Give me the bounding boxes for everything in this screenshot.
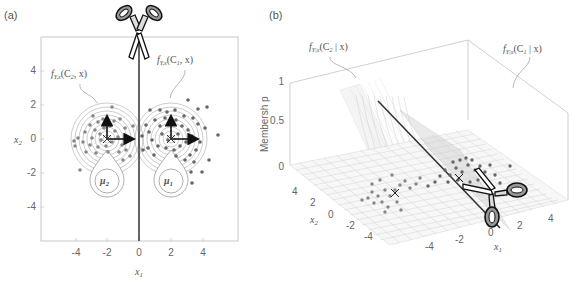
- figure: (a) 4 2 0 -2 -4 -4 -2 0 2 4 x1 x2: [0, 0, 581, 287]
- svg-text:fY|x(C1 | x): fY|x(C1 | x): [503, 43, 542, 55]
- svg-text:0: 0: [328, 209, 334, 220]
- svg-text:fY|x(C2 | x): fY|x(C2 | x): [309, 41, 348, 53]
- panel-b-x1-label: x1: [493, 241, 502, 254]
- svg-text:4: 4: [292, 186, 298, 197]
- svg-text:-4: -4: [425, 241, 434, 252]
- svg-text:2: 2: [30, 99, 36, 110]
- annotation-c1-b: fY|x(C1 | x): [503, 43, 542, 88]
- panel-a-y-ticks: 4 2 0 -2 -4: [27, 65, 36, 212]
- svg-text:0: 0: [30, 133, 36, 144]
- panel-b-x2-label: x2: [309, 214, 318, 227]
- svg-text:0.5: 0.5: [270, 115, 284, 126]
- svg-text:4: 4: [548, 213, 554, 224]
- svg-text:-2: -2: [455, 234, 464, 245]
- panel-b-z-ticks: 1 0.5 0: [270, 76, 284, 172]
- svg-text:-2: -2: [27, 167, 36, 178]
- svg-text:0: 0: [278, 161, 284, 172]
- svg-text:-2: -2: [103, 247, 112, 258]
- svg-text:fY,x(C1, x): fY,x(C1, x): [157, 54, 193, 66]
- panel-b-label: (b): [269, 9, 282, 21]
- annotation-c2-a: fY,x(C2, x): [51, 68, 98, 103]
- svg-text:2: 2: [517, 220, 523, 231]
- annotation-c1-a: fY,x(C1, x): [157, 54, 193, 98]
- panel-b-z-label: Membersh p: [259, 96, 270, 152]
- panel-a-x1-label: x1: [134, 266, 143, 279]
- svg-text:-4: -4: [72, 247, 81, 258]
- panel-a-x2-label: x2: [13, 134, 22, 147]
- svg-text:0: 0: [488, 227, 494, 238]
- svg-text:2: 2: [310, 197, 316, 208]
- panel-a-x-ticks: -4 -2 0 2 4: [72, 247, 207, 258]
- mu1-callout: [154, 150, 188, 197]
- svg-text:-4: -4: [27, 201, 36, 212]
- svg-text:-2: -2: [346, 220, 355, 231]
- svg-text:0: 0: [136, 247, 142, 258]
- svg-text:1: 1: [278, 76, 284, 87]
- svg-text:2: 2: [168, 247, 174, 258]
- svg-text:-4: -4: [364, 231, 373, 242]
- svg-text:fY,x(C2, x): fY,x(C2, x): [51, 68, 87, 80]
- mu2-callout: [90, 150, 124, 197]
- panel-a-label: (a): [4, 9, 17, 21]
- svg-text:4: 4: [30, 65, 36, 76]
- svg-text:4: 4: [200, 247, 206, 258]
